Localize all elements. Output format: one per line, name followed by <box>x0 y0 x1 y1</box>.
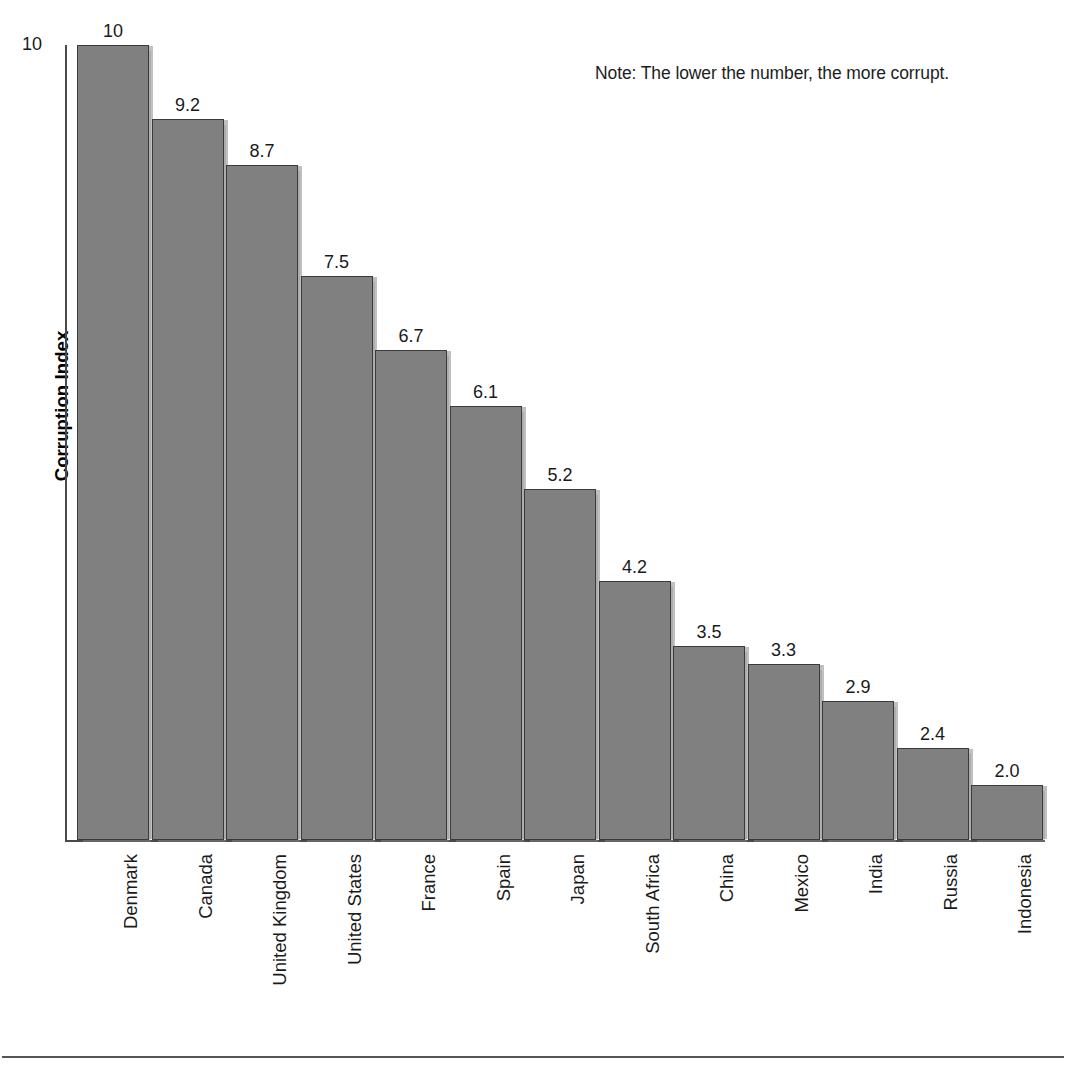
bar-group[interactable]: 6.1 <box>450 20 522 840</box>
x-axis-label: Japan <box>567 854 589 904</box>
bar[interactable] <box>152 119 224 840</box>
bar-value-label: 8.7 <box>212 141 312 162</box>
bar-value-label: 6.7 <box>361 326 461 347</box>
x-axis-label: Indonesia <box>1014 854 1036 934</box>
x-axis-labels: DenmarkCanadaUnited KingdomUnited States… <box>77 848 1045 1048</box>
x-axis-label: Spain <box>493 854 515 901</box>
x-axis-label: Canada <box>195 854 217 919</box>
bar-value-label: 6.1 <box>436 382 536 403</box>
x-axis-label: Mexico <box>791 854 813 913</box>
x-axis-label-slot: China <box>673 848 745 1038</box>
x-axis-label-slot: France <box>375 848 447 1038</box>
x-axis-label: India <box>865 854 887 894</box>
bar[interactable] <box>375 350 447 840</box>
x-axis-line <box>65 840 1045 842</box>
bar-value-label: 3.3 <box>734 640 834 661</box>
bar[interactable] <box>822 701 894 840</box>
bar-group[interactable]: 3.5 <box>673 20 745 840</box>
bar-group[interactable]: 10 <box>77 20 149 840</box>
x-axis-label-slot: South Africa <box>599 848 671 1038</box>
x-axis-label-slot: Mexico <box>748 848 820 1038</box>
y-axis-tick-label: 10 <box>22 34 42 55</box>
bar[interactable] <box>524 489 596 840</box>
bar-value-label: 2.9 <box>808 677 908 698</box>
x-axis-label: South Africa <box>642 854 664 954</box>
x-axis-label: United States <box>344 854 366 965</box>
x-axis-label: Russia <box>940 854 962 911</box>
bar-group[interactable]: 2.4 <box>897 20 969 840</box>
bar-group[interactable]: 3.3 <box>748 20 820 840</box>
x-axis-label-slot: Spain <box>450 848 522 1038</box>
x-axis-label-slot: Canada <box>152 848 224 1038</box>
x-axis-label-slot: United Kingdom <box>226 848 298 1038</box>
bottom-rule <box>2 1056 1064 1058</box>
bar-value-label: 10 <box>63 21 163 42</box>
x-axis-label-slot: Japan <box>524 848 596 1038</box>
bar[interactable] <box>673 646 745 840</box>
y-axis-title: Corruption Index <box>51 306 73 506</box>
bar-value-label: 5.2 <box>510 465 610 486</box>
plot-area: 109.28.77.56.76.15.24.23.53.32.92.42.0 <box>77 20 1045 840</box>
bar-group[interactable]: 8.7 <box>226 20 298 840</box>
x-axis-label: France <box>418 854 440 912</box>
bar-group[interactable]: 2.9 <box>822 20 894 840</box>
x-axis-label: United Kingdom <box>269 854 291 986</box>
bar-value-label: 9.2 <box>138 95 238 116</box>
x-axis-label-slot: Russia <box>897 848 969 1038</box>
x-axis-label: Denmark <box>120 854 142 929</box>
bar-value-label: 2.0 <box>957 761 1057 782</box>
x-axis-label-slot: United States <box>301 848 373 1038</box>
bar[interactable] <box>971 785 1043 840</box>
x-axis-label: China <box>716 854 738 902</box>
bar[interactable] <box>301 276 373 840</box>
x-axis-label-slot: Denmark <box>77 848 149 1038</box>
bar[interactable] <box>77 45 149 840</box>
bar-group[interactable]: 4.2 <box>599 20 671 840</box>
bar-group[interactable]: 2.0 <box>971 20 1043 840</box>
bar-value-label: 4.2 <box>585 557 685 578</box>
bar-value-label: 2.4 <box>883 724 983 745</box>
bar[interactable] <box>599 581 671 840</box>
bar-group[interactable]: 6.7 <box>375 20 447 840</box>
x-axis-label-slot: Indonesia <box>971 848 1043 1038</box>
bar-chart-figure: Note: The lower the number, the more cor… <box>0 0 1070 1075</box>
bar-value-label: 7.5 <box>287 252 387 273</box>
bar-group[interactable]: 7.5 <box>301 20 373 840</box>
bar-group[interactable]: 5.2 <box>524 20 596 840</box>
x-axis-label-slot: India <box>822 848 894 1038</box>
y-axis-line <box>65 45 67 842</box>
